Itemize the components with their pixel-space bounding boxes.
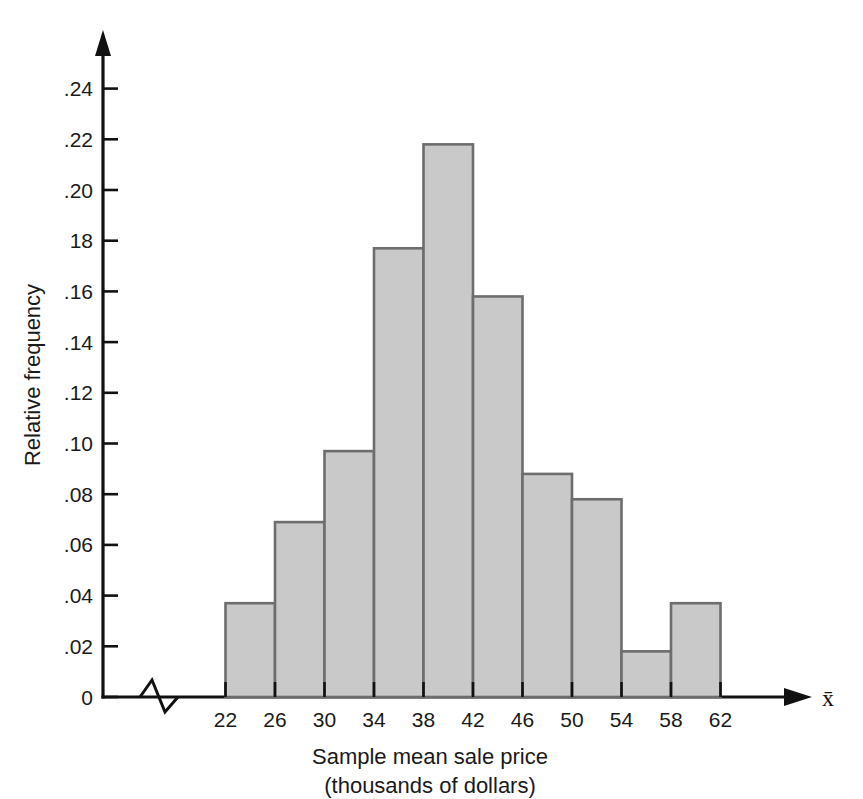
x-tick-label: 50 <box>560 708 583 731</box>
x-tick-label: 62 <box>709 708 732 731</box>
x-axis-title: Sample mean sale price <box>312 744 548 769</box>
y-tick-label: .22 <box>64 128 93 151</box>
y-tick-label: .06 <box>64 533 93 556</box>
y-tick-label: 18 <box>70 229 93 252</box>
x-tick-label: 26 <box>263 708 286 731</box>
histogram-bar <box>671 603 721 697</box>
x-tick-label: 38 <box>412 708 435 731</box>
histogram-bar <box>572 499 622 697</box>
y-tick-label: 0 <box>81 686 93 709</box>
x-tick-label: 58 <box>659 708 682 731</box>
histogram-chart: 0 .02 .04 .06 .08 .10 .12 .14 .16 18 .20… <box>0 0 863 799</box>
x-tick-label: 34 <box>362 708 386 731</box>
y-tick-label: .08 <box>64 483 93 506</box>
x-tick-label: 42 <box>461 708 484 731</box>
histogram-bar <box>226 603 276 697</box>
histogram-bar <box>275 522 325 697</box>
y-axis-title: Relative frequency <box>20 284 45 466</box>
y-tick-label: .02 <box>64 635 93 658</box>
x-tick-label: 22 <box>214 708 237 731</box>
y-tick-label: .12 <box>64 381 93 404</box>
histogram-figure: 0 .02 .04 .06 .08 .10 .12 .14 .16 18 .20… <box>0 0 863 799</box>
x-bar-symbol: x̄ <box>822 685 834 711</box>
histogram-bar <box>325 451 375 697</box>
y-tick-label: .16 <box>64 280 93 303</box>
x-tick-label: 54 <box>610 708 634 731</box>
y-tick-label: .24 <box>64 77 94 100</box>
y-tick-label: .20 <box>64 179 93 202</box>
x-tick-label: 30 <box>313 708 336 731</box>
x-tick-label: 46 <box>511 708 534 731</box>
histogram-bar <box>473 296 523 697</box>
y-tick-label: .10 <box>64 432 93 455</box>
x-axis-title-line2: (thousands of dollars) <box>324 773 536 798</box>
y-tick-label: .14 <box>64 331 94 354</box>
histogram-bar <box>523 474 573 697</box>
histogram-bar <box>374 248 424 697</box>
histogram-bar <box>622 651 672 697</box>
histogram-bar <box>424 144 474 697</box>
y-tick-label: .04 <box>64 584 94 607</box>
